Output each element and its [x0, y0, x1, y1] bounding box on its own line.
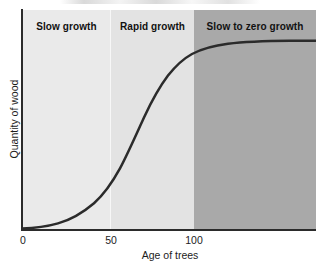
growth-curve-path [22, 41, 316, 229]
band-label-slow-to-zero-growth: Slow to zero growth [194, 21, 316, 32]
band-label-slow-growth: Slow growth [22, 21, 111, 32]
chart-figure: Slow growth Rapid growth Slow to zero gr… [0, 0, 326, 266]
x-tick-50: 50 [100, 234, 122, 246]
band-label-rapid-growth: Rapid growth [111, 21, 194, 32]
y-axis-line [21, 9, 23, 231]
x-axis-line [21, 229, 316, 231]
x-axis-title: Age of trees [120, 249, 220, 261]
x-tick-100: 100 [180, 234, 208, 246]
x-tick-0: 0 [15, 234, 31, 246]
growth-curve-svg [22, 10, 316, 230]
top-edge-artifact [60, 0, 260, 4]
y-axis-title: Quantity of wood [8, 49, 20, 189]
plot-area [22, 10, 316, 230]
